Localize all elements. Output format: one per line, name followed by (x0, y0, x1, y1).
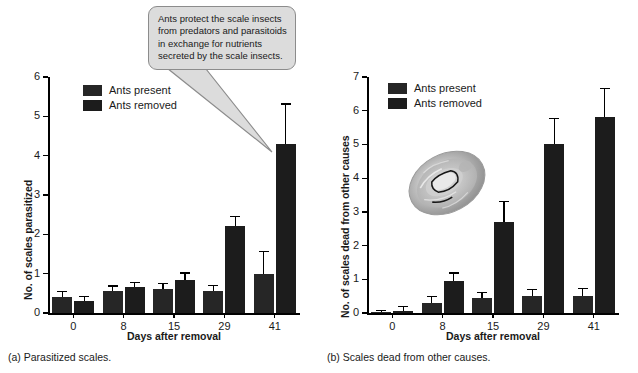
panel-a-bar-0-present (52, 297, 72, 313)
panel-b-error-cap (549, 118, 559, 119)
panel-a-error-bar (285, 105, 286, 144)
panel-a-error-cap (208, 285, 218, 286)
panel-b-bar-8-present (422, 303, 442, 313)
panel-a-x-axis-title: Days after removal (48, 330, 300, 342)
panel-b-bar-8-removed (444, 281, 464, 313)
panel-a-y-tick (43, 155, 48, 156)
panel-a-x-tick (73, 313, 74, 318)
panel-b-y-tick (362, 178, 367, 179)
panel-b-bar-29-removed (544, 144, 564, 313)
panel-a-error-cap (180, 272, 190, 273)
panel-a-caption: (a) Parasitized scales. (8, 351, 111, 363)
legend-item-ants-removed: Ants removed (83, 99, 177, 112)
panel-b-error-cap (600, 88, 610, 89)
panel-a-error-cap (230, 216, 240, 217)
panel-b-y-tick (362, 279, 367, 280)
panel-b-bar-41-removed (595, 117, 615, 313)
panel-b-y-tick-label: 2 (333, 240, 359, 251)
panel-a-error-bar (162, 284, 163, 289)
panel-b-scales-dead-other-causes: No. of scales dead from other causes 012… (319, 0, 638, 373)
panel-b-bar-15-removed (494, 222, 514, 313)
panel-b-error-bar (532, 290, 533, 296)
panel-a-y-tick-label: 4 (14, 150, 40, 161)
panel-b-error-bar (554, 119, 555, 144)
callout-bubble: Ants protect the scale insects from pred… (148, 6, 296, 70)
callout-line-3: in exchange for nutrients (158, 38, 287, 50)
panel-a-bar-29-removed (225, 226, 245, 313)
panel-a-y-tick-label: 2 (14, 228, 40, 239)
panel-b-y-axis-title: No. of scales dead from other causes (339, 135, 351, 318)
panel-a-y-tick (43, 234, 48, 235)
panel-b-y-axis (367, 77, 369, 313)
panel-b-error-bar (381, 311, 382, 312)
panel-a-error-cap (158, 283, 168, 284)
panel-a-bar-8-removed (125, 287, 145, 313)
panel-a-bar-15-removed (175, 280, 195, 313)
panel-a-error-bar (84, 297, 85, 301)
panel-a-error-bar (235, 217, 236, 226)
legend-item-ants-present: Ants present (388, 82, 482, 95)
panel-b-error-cap (376, 310, 386, 311)
panel-a-bar-41-present (254, 274, 274, 313)
panel-b-y-tick (362, 76, 367, 77)
panel-b-x-axis-title: Days after removal (367, 330, 619, 342)
panel-a-error-cap (281, 103, 291, 104)
panel-a-y-tick (43, 116, 48, 117)
panel-a-x-tick (123, 313, 124, 318)
legend-swatch-ants-present (83, 85, 102, 96)
panel-a-bar-29-present (203, 291, 223, 313)
panel-b-y-tick-label: 6 (333, 105, 359, 116)
panel-b-bar-0-removed (393, 311, 413, 313)
panel-b-y-tick (362, 245, 367, 246)
panel-b-x-tick (392, 313, 393, 318)
panel-b-bar-41-present (573, 296, 593, 313)
panel-a-y-tick-label: 1 (14, 268, 40, 279)
panel-a-bar-15-present (153, 289, 173, 313)
panel-b-y-tick-label: 0 (333, 307, 359, 318)
legend-label-ants-removed: Ants removed (414, 98, 482, 109)
panel-b-bar-15-present (472, 298, 492, 313)
panel-b-error-bar (403, 307, 404, 310)
panel-b-x-tick (492, 313, 493, 318)
legend-swatch-ants-present (388, 83, 407, 94)
panel-b-error-bar (503, 202, 504, 222)
panel-b-bar-29-present (522, 296, 542, 313)
panel-b-y-tick (362, 211, 367, 212)
panel-b-error-bar (582, 289, 583, 296)
panel-a-y-tick-label: 0 (14, 307, 40, 318)
legend-item-ants-present: Ants present (83, 84, 177, 97)
panel-b-x-tick (593, 313, 594, 318)
panel-a-error-bar (263, 252, 264, 274)
panel-a-y-axis (48, 77, 50, 313)
legend-label-ants-present: Ants present (109, 85, 171, 96)
legend-swatch-ants-removed (83, 100, 102, 111)
panel-b-error-cap (499, 201, 509, 202)
panel-b-error-bar (481, 293, 482, 297)
callout-line-1: Ants protect the scale insects (158, 13, 287, 25)
panel-a-error-cap (57, 291, 67, 292)
panel-b-y-tick-label: 4 (333, 172, 359, 183)
panel-b-error-cap (578, 288, 588, 289)
panel-b-error-cap (449, 272, 459, 273)
panel-b-error-cap (398, 306, 408, 307)
legend-item-ants-removed: Ants removed (388, 97, 482, 110)
panel-b-y-tick (362, 312, 367, 313)
panel-a-x-tick (173, 313, 174, 318)
panel-b-x-tick (442, 313, 443, 318)
panel-a-y-tick-label: 6 (14, 71, 40, 82)
panel-b-error-bar (431, 297, 432, 303)
panel-a-y-tick (43, 194, 48, 195)
panel-a-error-cap (108, 285, 118, 286)
panel-b-y-tick-label: 5 (333, 138, 359, 149)
scale-insect-photo (401, 137, 493, 229)
panel-b-caption: (b) Scales dead from other causes. (327, 351, 490, 363)
panel-a-error-cap (79, 296, 89, 297)
panel-a-error-cap (130, 282, 140, 283)
panel-a-x-tick (224, 313, 225, 318)
panel-b-y-tick-label: 1 (333, 273, 359, 284)
panel-a-error-bar (62, 292, 63, 297)
panel-b-error-cap (477, 292, 487, 293)
panel-a-error-cap (259, 251, 269, 252)
panel-a-error-bar (134, 283, 135, 288)
callout-line-4: secreted by the scale insects. (158, 50, 287, 62)
